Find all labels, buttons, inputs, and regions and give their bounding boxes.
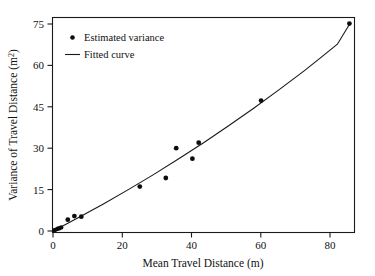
- x-tick-label-60: 60: [255, 239, 267, 251]
- y-axis-title: Variance of Travel Distance (m2): [7, 49, 21, 201]
- y-tick-label-45: 45: [33, 101, 45, 113]
- y-tick-label-60: 60: [33, 59, 45, 71]
- data-point: [174, 146, 179, 151]
- x-tick-label-20: 20: [117, 239, 129, 251]
- y-axis-title-close: ): [7, 49, 20, 53]
- svg-text:Variance of Travel Distance (m: Variance of Travel Distance (m2): [7, 49, 21, 201]
- x-axis-ticks: [53, 233, 330, 238]
- data-point: [347, 21, 352, 26]
- data-point: [79, 214, 84, 219]
- legend-label-estimated-variance: Estimated variance: [84, 32, 165, 43]
- y-tick-label-0: 0: [39, 225, 45, 237]
- legend-label-fitted-curve: Fitted curve: [84, 49, 135, 60]
- data-point: [190, 156, 195, 161]
- x-tick-label-0: 0: [50, 239, 56, 251]
- data-point: [137, 184, 142, 189]
- scatter-plot-svg: 75 60 45 30 15 0 0 20 40 60 80 Mean Trav…: [0, 0, 375, 276]
- x-axis-tick-labels: 0 20 40 60 80: [50, 239, 336, 251]
- y-tick-label-15: 15: [33, 184, 45, 196]
- y-tick-label-75: 75: [33, 18, 45, 30]
- y-axis-ticks: [48, 24, 53, 231]
- chart-figure: 75 60 45 30 15 0 0 20 40 60 80 Mean Trav…: [0, 0, 375, 276]
- data-point: [72, 214, 77, 219]
- data-point: [65, 217, 70, 222]
- y-axis-title-main: Variance of Travel Distance (m: [7, 57, 20, 201]
- x-tick-label-40: 40: [186, 239, 198, 251]
- data-point: [59, 225, 63, 229]
- data-point: [163, 176, 168, 181]
- chart-legend: Estimated variance Fitted curve: [65, 32, 165, 60]
- x-tick-label-80: 80: [325, 239, 337, 251]
- x-axis-title: Mean Travel Distance (m): [142, 257, 263, 270]
- data-point: [196, 140, 201, 145]
- y-axis-tick-labels: 75 60 45 30 15 0: [33, 18, 45, 237]
- legend-marker-estimated-variance: [70, 35, 75, 40]
- y-tick-label-30: 30: [33, 142, 45, 154]
- data-point: [259, 98, 264, 103]
